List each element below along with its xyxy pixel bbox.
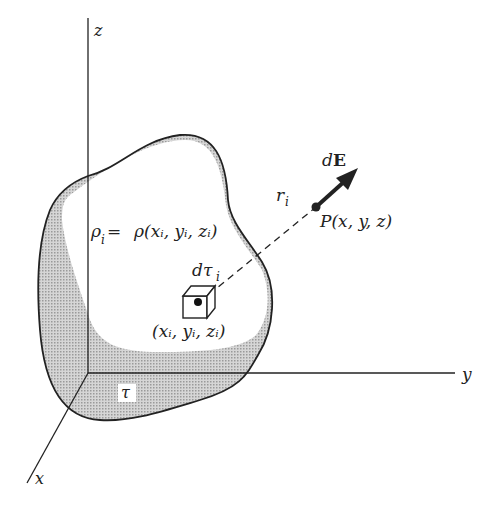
svg-text:ρ: ρ: [90, 221, 101, 241]
x-axis-label: x: [35, 469, 44, 488]
volume-shading: [0, 0, 499, 512]
svg-text:d: d: [322, 150, 333, 170]
source-point-dot: [194, 298, 202, 306]
svg-text:=: =: [107, 221, 121, 241]
charge-distribution-diagram: z y x ρ i = ρ(xᵢ, yᵢ, zᵢ) dτ i (xᵢ, yᵢ, …: [0, 0, 499, 512]
svg-text:E: E: [333, 150, 346, 170]
z-axis-label: z: [93, 21, 103, 40]
volume-element-cube: [183, 286, 215, 318]
field-point-label: P(x, y, z): [319, 211, 392, 231]
svg-text:r: r: [276, 185, 285, 205]
svg-text:dτ: dτ: [192, 260, 213, 280]
source-point-label: (xᵢ, yᵢ, zᵢ): [152, 321, 225, 341]
y-axis-label: y: [461, 364, 472, 384]
svg-text:i: i: [216, 270, 220, 284]
svg-text:i: i: [101, 233, 105, 247]
svg-text:i: i: [285, 195, 289, 209]
distance-label: r i: [276, 185, 289, 209]
field-vector-shaft: [316, 180, 346, 207]
field-vector-label: d E: [322, 150, 346, 170]
volume-label: τ: [121, 383, 131, 402]
svg-text:ρ(xᵢ, yᵢ, zᵢ): ρ(xᵢ, yᵢ, zᵢ): [133, 221, 217, 241]
